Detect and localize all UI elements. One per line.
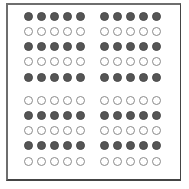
filled-circle-icon [24, 73, 33, 82]
hollow-circle-icon [24, 96, 33, 105]
filled-circle-icon [126, 42, 135, 51]
hollow-circle-icon [100, 126, 109, 135]
filled-circle-icon [63, 12, 72, 21]
filled-circle-icon [37, 42, 46, 51]
hollow-circle-icon [152, 96, 161, 105]
filled-circle-icon [50, 111, 59, 120]
hollow-circle-icon [100, 157, 109, 166]
filled-circle-icon [37, 73, 46, 82]
hollow-circle-icon [100, 96, 109, 105]
filled-circle-icon [126, 141, 135, 150]
hollow-circle-icon [63, 96, 72, 105]
hollow-circle-icon [63, 126, 72, 135]
filled-circle-icon [126, 73, 135, 82]
hollow-circle-icon [126, 157, 135, 166]
hollow-circle-icon [76, 126, 85, 135]
hollow-circle-icon [152, 126, 161, 135]
hollow-circle-icon [152, 27, 161, 36]
hollow-circle-icon [139, 27, 148, 36]
filled-circle-icon [139, 12, 148, 21]
hollow-circle-icon [126, 57, 135, 66]
filled-circle-icon [50, 12, 59, 21]
filled-circle-icon [139, 111, 148, 120]
filled-circle-icon [152, 111, 161, 120]
filled-circle-icon [100, 141, 109, 150]
filled-circle-icon [76, 73, 85, 82]
filled-circle-icon [24, 12, 33, 21]
hollow-circle-icon [24, 157, 33, 166]
filled-circle-icon [113, 42, 122, 51]
filled-circle-icon [113, 111, 122, 120]
hollow-circle-icon [113, 57, 122, 66]
filled-circle-icon [126, 12, 135, 21]
filled-circle-icon [100, 111, 109, 120]
hollow-circle-icon [37, 96, 46, 105]
hollow-circle-icon [24, 57, 33, 66]
hollow-circle-icon [76, 96, 85, 105]
hollow-circle-icon [126, 96, 135, 105]
filled-circle-icon [50, 141, 59, 150]
hollow-circle-icon [63, 157, 72, 166]
filled-circle-icon [76, 111, 85, 120]
hollow-circle-icon [139, 157, 148, 166]
hollow-circle-icon [37, 27, 46, 36]
hollow-circle-icon [37, 157, 46, 166]
filled-circle-icon [100, 12, 109, 21]
hollow-circle-icon [139, 126, 148, 135]
hollow-circle-icon [139, 57, 148, 66]
hollow-circle-icon [113, 96, 122, 105]
hollow-circle-icon [50, 96, 59, 105]
filled-circle-icon [63, 73, 72, 82]
hollow-circle-icon [100, 27, 109, 36]
hollow-circle-icon [50, 27, 59, 36]
filled-circle-icon [100, 42, 109, 51]
hollow-circle-icon [152, 57, 161, 66]
filled-circle-icon [152, 42, 161, 51]
filled-circle-icon [63, 42, 72, 51]
hollow-circle-icon [63, 27, 72, 36]
filled-circle-icon [113, 141, 122, 150]
hollow-circle-icon [24, 126, 33, 135]
filled-circle-icon [152, 12, 161, 21]
filled-circle-icon [24, 111, 33, 120]
hollow-circle-icon [76, 27, 85, 36]
filled-circle-icon [37, 12, 46, 21]
filled-circle-icon [37, 111, 46, 120]
hollow-circle-icon [37, 57, 46, 66]
filled-circle-icon [76, 42, 85, 51]
filled-circle-icon [139, 73, 148, 82]
filled-circle-icon [76, 12, 85, 21]
filled-circle-icon [126, 111, 135, 120]
hollow-circle-icon [50, 126, 59, 135]
filled-circle-icon [152, 73, 161, 82]
hollow-circle-icon [126, 126, 135, 135]
filled-circle-icon [50, 73, 59, 82]
hollow-circle-icon [50, 157, 59, 166]
hollow-circle-icon [113, 157, 122, 166]
filled-circle-icon [37, 141, 46, 150]
filled-circle-icon [113, 73, 122, 82]
hollow-circle-icon [152, 157, 161, 166]
hollow-circle-icon [24, 27, 33, 36]
filled-circle-icon [100, 73, 109, 82]
hollow-circle-icon [76, 57, 85, 66]
hollow-circle-icon [37, 126, 46, 135]
filled-circle-icon [50, 42, 59, 51]
filled-circle-icon [113, 12, 122, 21]
filled-circle-icon [76, 141, 85, 150]
hollow-circle-icon [100, 57, 109, 66]
hollow-circle-icon [139, 96, 148, 105]
filled-circle-icon [24, 42, 33, 51]
filled-circle-icon [152, 141, 161, 150]
filled-circle-icon [24, 141, 33, 150]
hollow-circle-icon [113, 27, 122, 36]
filled-circle-icon [63, 141, 72, 150]
hollow-circle-icon [63, 57, 72, 66]
filled-circle-icon [63, 111, 72, 120]
hollow-circle-icon [113, 126, 122, 135]
hollow-circle-icon [76, 157, 85, 166]
filled-circle-icon [139, 42, 148, 51]
hollow-circle-icon [50, 57, 59, 66]
filled-circle-icon [139, 141, 148, 150]
hollow-circle-icon [126, 27, 135, 36]
